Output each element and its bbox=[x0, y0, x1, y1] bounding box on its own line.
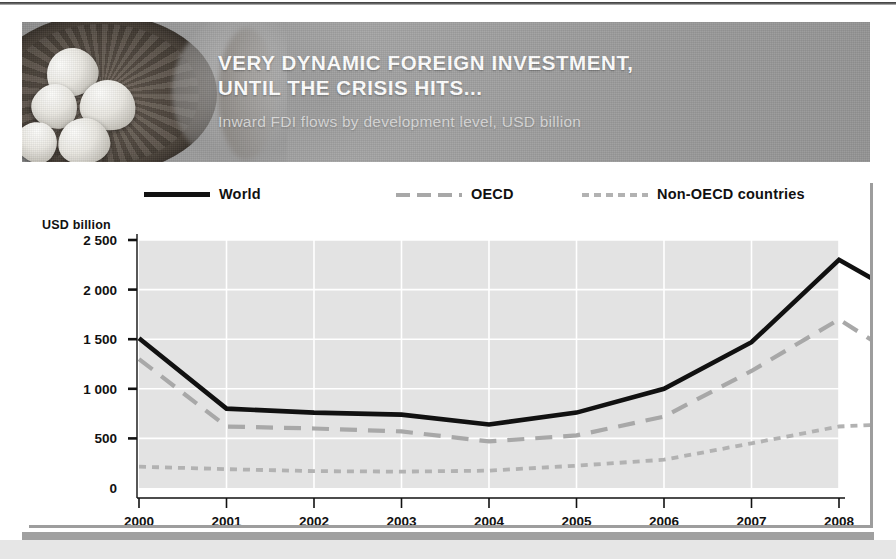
footer-strip bbox=[0, 540, 896, 559]
svg-text:2006: 2006 bbox=[649, 514, 680, 525]
svg-text:2 000: 2 000 bbox=[83, 283, 117, 298]
svg-text:2 500: 2 500 bbox=[83, 233, 117, 248]
svg-text:2007: 2007 bbox=[736, 514, 766, 525]
svg-text:2004: 2004 bbox=[474, 514, 505, 525]
page-root: VERY DYNAMIC FOREIGN INVESTMENT, UNTIL T… bbox=[0, 0, 896, 559]
svg-text:2000: 2000 bbox=[124, 514, 154, 525]
svg-text:2008: 2008 bbox=[824, 514, 855, 525]
svg-text:2001: 2001 bbox=[211, 514, 242, 525]
svg-text:1 000: 1 000 bbox=[83, 382, 117, 397]
top-rule-divider bbox=[0, 2, 896, 5]
banner-text-block: VERY DYNAMIC FOREIGN INVESTMENT, UNTIL T… bbox=[218, 50, 848, 132]
banner-subtitle: Inward FDI flows by development level, U… bbox=[218, 112, 848, 132]
svg-text:2002: 2002 bbox=[299, 514, 329, 525]
banner-title-line-1: VERY DYNAMIC FOREIGN INVESTMENT, bbox=[218, 50, 848, 75]
svg-text:2005: 2005 bbox=[561, 514, 592, 525]
x-axis-ticks: 200020012002200320042005200620072008 bbox=[124, 498, 855, 525]
svg-text:1 500: 1 500 bbox=[83, 332, 117, 347]
banner-title-line-2: UNTIL THE CRISIS HITS... bbox=[218, 75, 848, 100]
chart-card: World OECD Non-OECD countries USD billio… bbox=[26, 180, 870, 525]
svg-text:0: 0 bbox=[109, 481, 117, 496]
line-chart-svg: 2 5002 0001 5001 0005000 200020012002200… bbox=[26, 180, 870, 525]
header-banner: VERY DYNAMIC FOREIGN INVESTMENT, UNTIL T… bbox=[22, 22, 870, 162]
svg-text:500: 500 bbox=[94, 431, 117, 446]
plot-area-wrapper: 2 5002 0001 5001 0005000 200020012002200… bbox=[26, 180, 870, 525]
y-axis-ticks: 2 5002 0001 5001 0005000 bbox=[83, 233, 137, 498]
svg-text:2003: 2003 bbox=[386, 514, 417, 525]
